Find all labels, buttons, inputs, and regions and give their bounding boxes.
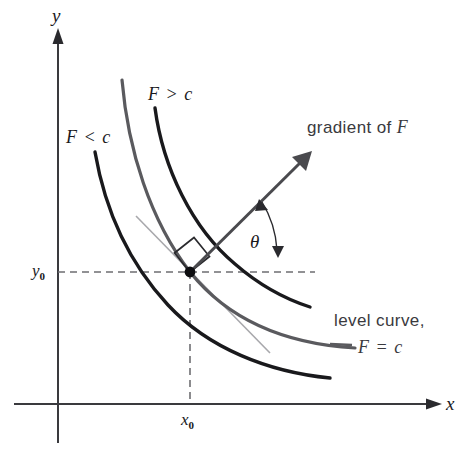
level-curve-gradient-figure: y x y0 x0 F < c F > c gradient of F leve… — [0, 0, 462, 451]
label-level-curve: level curve, — [334, 312, 425, 329]
label-f-greater-than-c: F > c — [148, 85, 193, 103]
y0-subscript: 0 — [40, 270, 46, 282]
y0-base: y — [32, 261, 40, 280]
curve-f-greater-than-c — [155, 108, 310, 307]
point-x0-y0 — [185, 267, 196, 278]
y-axis — [53, 28, 64, 443]
right-angle-marker — [175, 238, 210, 273]
label-f-less-than-c: F < c — [66, 128, 111, 146]
label-theta: θ — [250, 232, 259, 251]
gradient-text: gradient of — [307, 118, 397, 137]
y0-tick-label: y0 — [32, 262, 45, 282]
x-axis-label: x — [446, 394, 454, 413]
y-axis-label: y — [52, 6, 60, 25]
x0-base: x — [181, 410, 189, 429]
theta-angle-arc — [255, 199, 284, 258]
label-f-equals-c: F = c — [358, 338, 403, 356]
gradient-variable: F — [397, 117, 408, 137]
gradient-vector — [190, 151, 312, 272]
label-gradient-of-f: gradient of F — [307, 118, 408, 136]
diagram-canvas — [0, 0, 462, 451]
x-axis — [14, 399, 442, 410]
x0-tick-label: x0 — [181, 411, 194, 431]
curve-f-less-than-c — [95, 152, 330, 378]
level-curve-leader — [330, 344, 352, 345]
x0-subscript: 0 — [189, 419, 195, 431]
